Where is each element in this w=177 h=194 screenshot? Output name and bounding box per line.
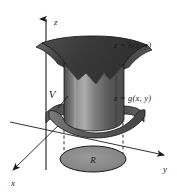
region-r-label: R [89,155,96,165]
figure-container: R [0,0,177,194]
solid-region-label: V [49,88,57,100]
upper-surface-label: z = h(x, y) [113,40,151,50]
z-axis-label: z [53,17,58,27]
x-axis-label: x [10,178,15,188]
base-region-R: R [60,146,126,172]
lower-surface-label: z = g(x, y) [113,93,151,103]
solid-region-figure: R [0,0,177,194]
y-axis-label: y [162,164,167,174]
